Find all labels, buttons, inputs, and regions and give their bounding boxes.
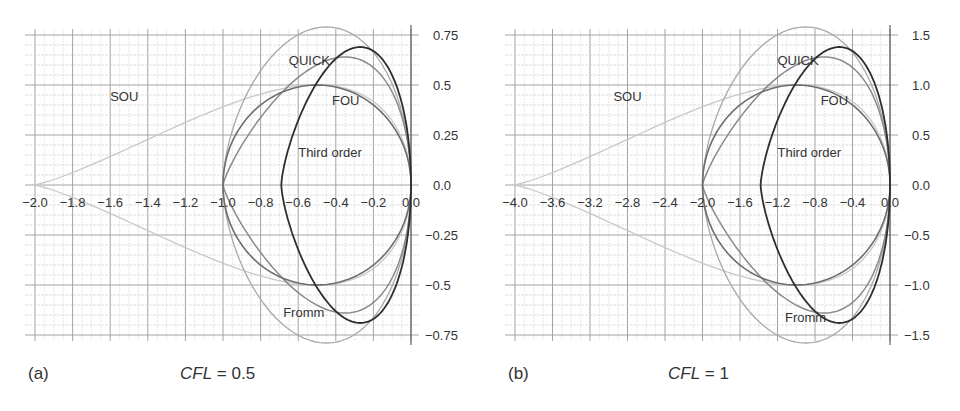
- curve-label: Fromm: [283, 305, 324, 320]
- chart-b: −4.0−3.6−3.2−2.8−2.4−2.0−1.6−1.2−0.8−0.4…: [480, 0, 960, 360]
- x-tick-label: −2.4: [652, 195, 678, 210]
- x-tick-label: −4.0: [502, 195, 528, 210]
- y-tick-label: −0.25: [425, 228, 458, 243]
- x-tick-label: −0.4: [323, 195, 349, 210]
- x-tick-label: −3.6: [540, 195, 566, 210]
- y-tick-label: −0.5: [425, 278, 451, 293]
- y-tick-label: 0.0: [912, 178, 930, 193]
- curve-label: FOU: [821, 93, 848, 108]
- y-tick-label: 0.5: [433, 78, 451, 93]
- x-tick-label: −1.2: [173, 195, 199, 210]
- y-tick-labels: 0.750.50.250.0−0.25−0.5−0.75: [425, 28, 458, 343]
- y-tick-label: −1.5: [904, 328, 930, 343]
- x-tick-label: −2.0: [690, 195, 716, 210]
- curve-label: FOU: [332, 93, 359, 108]
- x-tick-label: −1.6: [97, 195, 123, 210]
- cfl-value: = 1: [705, 364, 729, 383]
- grid: [25, 29, 419, 341]
- x-tick-label: −1.6: [727, 195, 753, 210]
- panel-a: −2.0−1.8−1.6−1.4−1.2−1.0−0.8−0.6−0.4−0.2…: [0, 0, 480, 411]
- x-tick-label: −2.8: [615, 195, 641, 210]
- x-tick-label: −3.2: [577, 195, 603, 210]
- x-tick-label: −0.8: [248, 195, 274, 210]
- y-tick-label: 0.25: [433, 128, 458, 143]
- y-tick-label: −0.75: [425, 328, 458, 343]
- curve-label: Fromm: [785, 310, 826, 325]
- curve-label: Third order: [298, 145, 362, 160]
- cfl-variable: CFL: [668, 364, 700, 383]
- y-tick-labels: 1.51.00.50.0−0.5−1.0−1.5: [904, 28, 930, 343]
- x-tick-label: −1.0: [210, 195, 236, 210]
- y-tick-label: 0.0: [433, 178, 451, 193]
- grid: [505, 29, 898, 341]
- panel-label: (a): [28, 364, 49, 384]
- curve-label: SOU: [110, 89, 138, 104]
- y-tick-label: 0.5: [912, 128, 930, 143]
- y-tick-label: −0.5: [904, 228, 930, 243]
- x-tick-label: 0.0: [402, 195, 420, 210]
- cfl-variable: CFL: [180, 364, 212, 383]
- cfl-value: = 0.5: [217, 364, 255, 383]
- x-tick-label: −0.8: [802, 195, 828, 210]
- y-tick-label: 0.75: [433, 28, 458, 43]
- x-tick-label: −1.4: [135, 195, 161, 210]
- cfl-caption: CFL = 1: [668, 364, 729, 384]
- x-tick-label: −1.2: [765, 195, 791, 210]
- curve-label: Third order: [778, 145, 842, 160]
- x-tick-label: 0.0: [881, 195, 899, 210]
- y-tick-label: −1.0: [904, 278, 930, 293]
- curve-label: QUICK: [778, 53, 820, 68]
- y-tick-label: 1.5: [912, 28, 930, 43]
- y-tick-label: 1.0: [912, 78, 930, 93]
- x-tick-label: −1.8: [60, 195, 86, 210]
- x-tick-label: −0.4: [840, 195, 866, 210]
- x-tick-labels: −4.0−3.6−3.2−2.8−2.4−2.0−1.6−1.2−0.8−0.4…: [502, 195, 899, 210]
- x-tick-label: −0.6: [285, 195, 311, 210]
- cfl-caption: CFL = 0.5: [180, 364, 255, 384]
- x-tick-label: −0.2: [361, 195, 387, 210]
- x-tick-labels: −2.0−1.8−1.6−1.4−1.2−1.0−0.8−0.6−0.4−0.2…: [22, 195, 420, 210]
- curve-label: QUICK: [289, 53, 331, 68]
- x-tick-label: −2.0: [22, 195, 48, 210]
- chart-a: −2.0−1.8−1.6−1.4−1.2−1.0−0.8−0.6−0.4−0.2…: [0, 0, 480, 360]
- curve-label: SOU: [613, 89, 641, 104]
- panel-label: (b): [508, 364, 529, 384]
- panel-b: −4.0−3.6−3.2−2.8−2.4−2.0−1.6−1.2−0.8−0.4…: [480, 0, 960, 411]
